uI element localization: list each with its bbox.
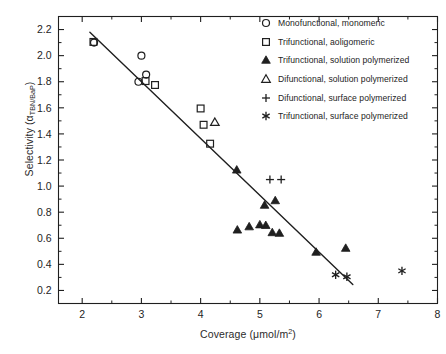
x-axis-label-main: Coverage (μmol/m (200, 328, 288, 340)
legend-marker-asterisk (258, 109, 278, 123)
y-tick-label: 1.2 (37, 154, 52, 166)
marker-circle-open (138, 52, 145, 59)
y-tick-label: 0.8 (37, 206, 52, 218)
legend-item-label: Difunctional, surface polymerized (278, 93, 406, 103)
x-tick-label: 5 (257, 308, 263, 320)
y-tick-label: 0.6 (37, 232, 52, 244)
marker-triangle-filled (341, 244, 350, 252)
y-tick-label: 2.2 (37, 23, 52, 35)
legend-item: Difunctional, surface polymerized (258, 88, 444, 107)
y-tick-label: 1.6 (37, 102, 52, 114)
marker-square-open (197, 105, 204, 112)
x-tick-label: 2 (79, 308, 85, 320)
series-1 (90, 39, 213, 148)
marker-triangle-filled (262, 56, 271, 64)
y-axis-label-tail: ) (23, 82, 35, 86)
x-tick-label: 8 (435, 308, 441, 320)
series-0 (91, 39, 150, 85)
x-tick-label: 7 (375, 308, 381, 320)
legend-item: Difunctional, solution polymerized (258, 70, 444, 89)
x-tick-label: 3 (138, 308, 144, 320)
x-axis-label: Coverage (μmol/m2) (58, 327, 438, 340)
legend-marker-triangle-filled (258, 53, 278, 67)
y-tick-label: 0.2 (37, 284, 52, 296)
series-5 (332, 267, 406, 281)
legend-item: Trifunctional, surface polymerized (258, 107, 444, 126)
legend-marker-cell (258, 72, 278, 86)
legend-marker-cell (258, 109, 278, 123)
y-axis-label-subscript: TBN/BaP (28, 85, 37, 115)
legend-marker-cell (258, 35, 278, 49)
legend-marker-triangle-open (258, 72, 278, 86)
legend-item: Trifunctional, solution polymerized (258, 51, 444, 70)
legend-item: Trifunctional, aoligomeric (258, 33, 444, 52)
series-3 (211, 118, 220, 126)
marker-square-open (152, 82, 159, 89)
marker-triangle-open (211, 118, 220, 126)
y-tick-label: 1.8 (37, 75, 52, 87)
y-axis-label-main: Selectivity (α (23, 115, 35, 176)
legend-marker-circle-open (258, 16, 278, 30)
marker-circle-open (143, 71, 150, 78)
legend-item-label: Difunctional, solution polymerized (278, 74, 408, 84)
legend-item-label: Trifunctional, solution polymerized (278, 55, 409, 65)
y-tick-label: 1.0 (37, 180, 52, 192)
marker-square-open (263, 38, 270, 45)
legend-marker-cell (258, 16, 278, 30)
legend-item-label: Monofunctional, monomeric (278, 18, 385, 28)
y-tick-label: 0.4 (37, 258, 52, 270)
legend-item: Monofunctional, monomeric (258, 14, 444, 33)
legend-marker-cell (258, 91, 278, 105)
legend-marker-square-open (258, 35, 278, 49)
y-axis-label: Selectivity (αTBN/BaP) (23, 49, 39, 209)
series-2 (232, 166, 350, 256)
scatter-chart-figure: 23456780.20.40.60.81.01.21.41.61.82.02.2… (0, 0, 446, 354)
chart-legend: Monofunctional, monomericTrifunctional, … (258, 14, 444, 126)
x-tick-label: 6 (316, 308, 322, 320)
marker-triangle-filled (271, 196, 280, 204)
marker-triangle-filled (245, 222, 254, 230)
x-tick-label: 4 (198, 308, 204, 320)
marker-triangle-filled (233, 226, 242, 234)
legend-item-label: Trifunctional, aoligomeric (278, 37, 375, 47)
legend-marker-cell (258, 53, 278, 67)
marker-triangle-open (262, 75, 271, 83)
marker-square-open (200, 121, 207, 128)
y-tick-label: 1.4 (37, 128, 52, 140)
x-axis-label-tail: ) (292, 328, 296, 340)
y-tick-label: 2.0 (37, 49, 52, 61)
legend-item-label: Trifunctional, surface polymerized (278, 111, 408, 121)
marker-triangle-filled (268, 228, 277, 236)
marker-circle-open (263, 20, 270, 27)
marker-triangle-filled (275, 229, 284, 237)
series-4 (266, 176, 285, 184)
legend-marker-plus (258, 91, 278, 105)
